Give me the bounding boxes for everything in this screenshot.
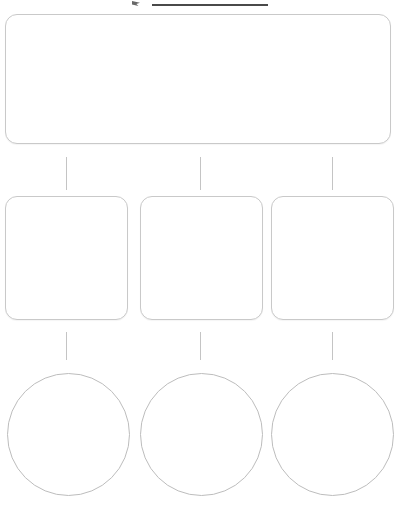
connector-branch-2-to-leaf-2 [200,332,201,360]
node-leaf-3[interactable] [271,373,394,496]
node-root[interactable] [5,14,391,144]
connector-branch-3-to-leaf-3 [332,332,333,360]
node-leaf-2-label [141,374,262,495]
connector-root-to-branch-1 [66,157,67,190]
connector-root-to-branch-2 [200,157,201,190]
node-branch-1[interactable] [5,196,128,320]
arrow-marker-icon [132,1,140,6]
node-leaf-1[interactable] [7,373,130,496]
node-leaf-2[interactable] [140,373,263,496]
node-leaf-3-label [272,374,393,495]
node-branch-3[interactable] [271,196,394,320]
diagram-canvas [0,0,402,508]
node-branch-2[interactable] [140,196,263,320]
connector-root-to-branch-3 [332,157,333,190]
node-branch-3-label [272,197,393,319]
node-branch-1-label [6,197,127,319]
heading-strip [0,0,402,9]
node-leaf-1-label [8,374,129,495]
node-root-label [6,15,390,143]
heading-underline [152,4,268,6]
node-branch-2-label [141,197,262,319]
connector-branch-1-to-leaf-1 [66,332,67,360]
